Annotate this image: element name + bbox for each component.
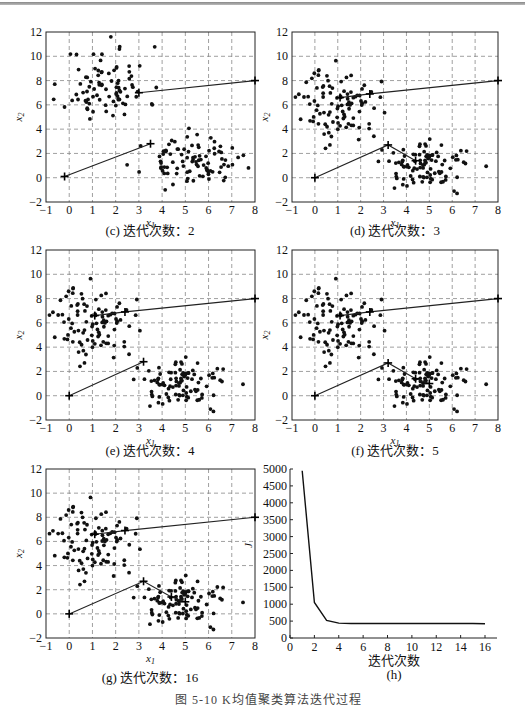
y-tick-label: 5000: [263, 462, 287, 476]
y-tick-label: 4000: [263, 496, 287, 510]
caption-g: (g) 迭代次数：16: [102, 667, 198, 686]
caption-e: (e) 迭代次数：4: [105, 440, 194, 459]
y-tick-label: 3500: [263, 513, 287, 527]
x-tick-label: 6: [360, 640, 366, 654]
x-tick-label: 4: [336, 640, 342, 654]
y-tick-label: 2000: [263, 563, 287, 577]
y-tick-label: 1500: [263, 580, 287, 594]
x-tick-label: 12: [430, 640, 442, 654]
caption-c: (c) 迭代次数：2: [105, 220, 194, 239]
figure-caption: 图 5-10 K均值聚类算法迭代过程: [175, 690, 362, 708]
y-tick-label: 500: [269, 614, 287, 628]
x-tick-label: 2: [311, 640, 317, 654]
x-tick-label: 16: [479, 640, 491, 654]
caption-f: (f) 迭代次数：5: [351, 440, 439, 459]
y-axis-label: J: [242, 542, 254, 548]
caption-d: (d) 迭代次数：3: [350, 220, 440, 239]
x-tick-label: 14: [455, 640, 467, 654]
caption-h: (h): [386, 667, 401, 683]
y-tick-label: 4500: [263, 479, 287, 493]
y-tick-label: 2500: [263, 547, 287, 561]
y-tick-label: 1000: [263, 597, 287, 611]
y-tick-label: 3000: [263, 530, 287, 544]
x-tick-label: 0: [287, 640, 293, 654]
objective-curve: [302, 471, 485, 624]
